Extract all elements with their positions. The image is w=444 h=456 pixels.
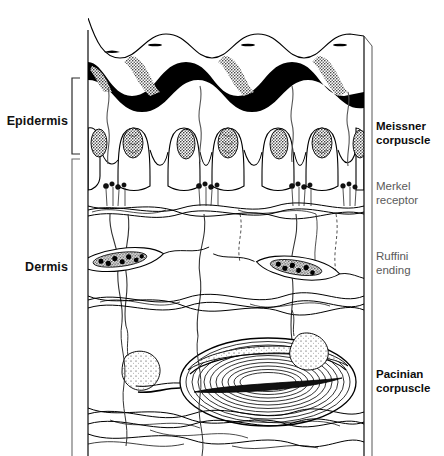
receptor-label-pacinian-line2: corpuscle [376, 382, 430, 396]
receptor-label-ruffini: Ruffini ending [376, 250, 411, 277]
receptor-label-meissner-line2: corpuscle [376, 134, 430, 148]
layer-label-epidermis: Epidermis [7, 115, 68, 128]
dermis-bracket [72, 159, 80, 456]
receptor-label-merkel: Merkel receptor [376, 180, 418, 207]
receptor-label-meissner-line1: Meissner [376, 120, 430, 134]
skin-block [33, 18, 380, 456]
receptor-label-pacinian: Pacinian corpuscle [376, 368, 430, 395]
receptor-label-merkel-line1: Merkel [376, 180, 418, 194]
receptor-label-ruffini-line2: ending [376, 264, 411, 278]
receptor-label-meissner: Meissner corpuscle [376, 120, 430, 147]
meissner-corpuscle [91, 128, 367, 159]
receptor-label-merkel-line2: receptor [376, 194, 418, 208]
receptor-label-pacinian-line1: Pacinian [376, 368, 430, 382]
receptor-label-ruffini-line1: Ruffini [376, 250, 411, 264]
layer-label-dermis: Dermis [25, 261, 68, 274]
epidermis-bracket [72, 78, 80, 154]
skin-receptors-figure: Epidermis Dermis Meissner corpuscle Merk… [0, 0, 444, 456]
